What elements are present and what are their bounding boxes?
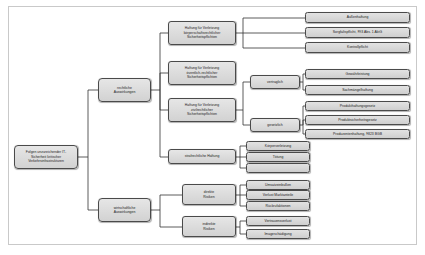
node-kontrollpflicht[interactable]: Kontrollpflicht bbox=[305, 42, 410, 53]
node-haftung-zivilrechtlich[interactable]: Haftung für Verletzung zivilrechtlicher … bbox=[168, 98, 236, 122]
node-strafrechtliche-haftung[interactable]: strafrechtliche Haftung bbox=[168, 149, 236, 164]
node-koerperverletzung[interactable]: Körperverletzung bbox=[246, 141, 310, 151]
node-rueckrufaktionen[interactable]: Rückrufaktionen bbox=[246, 201, 310, 211]
node-produzentenhaftung[interactable]: Produzentenhaftung, §823 BGB bbox=[305, 129, 410, 139]
node-vertraglich[interactable]: vertraglich bbox=[250, 75, 300, 89]
node-sorgfaltspflicht[interactable]: Sorgfaltspflicht, §93 Abs. 1 AktG bbox=[305, 27, 410, 38]
node-wirtschaftliche-auswirkungen[interactable]: wirtschaftliche Auswirkungen bbox=[98, 198, 151, 222]
node-imageschaedigung[interactable]: Imageschädigung bbox=[246, 229, 310, 239]
node-verlust-marktanteile[interactable]: Verlust Marktanteile bbox=[246, 190, 310, 200]
node-aussenhaftung[interactable]: Außenhaftung bbox=[305, 12, 410, 23]
node-rechtliche-auswirkungen[interactable]: rechtliche Auswirkungen bbox=[98, 78, 151, 102]
node-umsatzeinbussen[interactable]: Umsatzeinbußen bbox=[246, 180, 310, 190]
node-gesetzlich[interactable]: gesetzlich bbox=[250, 118, 300, 132]
node-direkte-risiken[interactable]: direkte Risiken bbox=[182, 184, 236, 205]
node-haftung-oeffentlich-rechtlich[interactable]: Haftung für Verletzung öventlich-rechtli… bbox=[168, 61, 236, 85]
diagram-canvas: Folgen unzureichender IT- Sicherheit kri… bbox=[0, 0, 425, 255]
node-gewaehrleistung[interactable]: Gewährleistung bbox=[305, 69, 410, 79]
node-indirekte-risiken[interactable]: indirekte Risiken bbox=[182, 216, 236, 237]
node-strafrecht-empty[interactable] bbox=[246, 163, 310, 173]
node-sachmaengelhaftung[interactable]: Sachmängelhaftung bbox=[305, 85, 410, 95]
node-produktsicherheitsgesetz[interactable]: Produktsicherheitsgesetz bbox=[305, 115, 410, 125]
node-vertrauensverlust[interactable]: Vertrauensverlust bbox=[246, 216, 310, 226]
node-toetung[interactable]: Tötung bbox=[246, 152, 310, 162]
node-root[interactable]: Folgen unzureichender IT- Sicherheit kri… bbox=[14, 145, 78, 169]
node-produkthaftungsgesetz[interactable]: Produkthaftungsgesetz bbox=[305, 101, 410, 111]
node-haftung-koerperschaftsrechtlich[interactable]: Haftung für Verletzung körperschaftsrech… bbox=[168, 21, 236, 45]
